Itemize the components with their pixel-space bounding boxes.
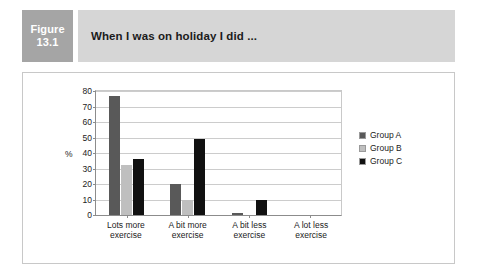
legend-item-label: Group A bbox=[370, 130, 401, 140]
bar[interactable] bbox=[232, 213, 243, 215]
x-axis-category-label: A bit lessexercise bbox=[219, 220, 281, 240]
x-axis-category-line2: exercise bbox=[95, 230, 157, 240]
legend-item[interactable]: Group B bbox=[359, 143, 402, 153]
chart-legend: Group AGroup BGroup C bbox=[359, 130, 402, 166]
x-axis-tick-mark bbox=[127, 215, 128, 218]
x-axis-category-line1: A bit more bbox=[157, 220, 219, 230]
bar-group bbox=[219, 91, 280, 215]
y-axis-tick-label: 40 bbox=[83, 148, 92, 158]
legend-swatch-icon bbox=[359, 132, 366, 139]
x-axis-labels: Lots moreexerciseA bit moreexerciseA bit… bbox=[95, 220, 342, 240]
gridline bbox=[96, 215, 341, 216]
y-axis-tick-label: 0 bbox=[87, 210, 92, 220]
legend-swatch-icon bbox=[359, 145, 366, 152]
bar[interactable] bbox=[256, 200, 267, 216]
x-axis-category-line1: A lot less bbox=[280, 220, 342, 230]
bar-groups bbox=[96, 91, 341, 215]
figure-container: Figure 13.1 When I was on holiday I did … bbox=[0, 0, 479, 276]
bar[interactable] bbox=[194, 139, 205, 215]
figure-number-word: Figure bbox=[30, 23, 64, 36]
y-axis-tick-mark bbox=[93, 215, 96, 216]
x-axis-category-label: Lots moreexercise bbox=[95, 220, 157, 240]
y-axis-tick-label: 20 bbox=[83, 179, 92, 189]
x-axis-category-label: A bit moreexercise bbox=[157, 220, 219, 240]
x-axis-category-line2: exercise bbox=[280, 230, 342, 240]
y-axis-tick-label: 10 bbox=[83, 195, 92, 205]
x-axis-category-line2: exercise bbox=[157, 230, 219, 240]
y-axis-tick-label: 80 bbox=[83, 86, 92, 96]
bar-group bbox=[157, 91, 218, 215]
legend-item[interactable]: Group C bbox=[359, 156, 402, 166]
x-axis-category-line1: A bit less bbox=[219, 220, 281, 230]
bar[interactable] bbox=[121, 165, 132, 215]
figure-number-value: 13.1 bbox=[37, 36, 59, 49]
y-axis-title: % bbox=[65, 149, 73, 159]
x-axis-category-line2: exercise bbox=[219, 230, 281, 240]
y-axis-tick-label: 70 bbox=[83, 102, 92, 112]
figure-number-badge: Figure 13.1 bbox=[22, 10, 73, 62]
legend-item-label: Group C bbox=[370, 156, 402, 166]
figure-title: When I was on holiday I did ... bbox=[91, 30, 257, 42]
y-axis-tick-label: 30 bbox=[83, 164, 92, 174]
x-axis-tick-mark bbox=[188, 215, 189, 218]
bar[interactable] bbox=[109, 96, 120, 215]
x-axis-category-label: A lot lessexercise bbox=[280, 220, 342, 240]
bar[interactable] bbox=[182, 200, 193, 216]
legend-item[interactable]: Group A bbox=[359, 130, 402, 140]
bar[interactable] bbox=[170, 184, 181, 215]
chart-panel: % 80706050403020100 Lots moreexerciseA b… bbox=[22, 72, 455, 264]
y-axis-tick-label: 60 bbox=[83, 117, 92, 127]
figure-title-bar: When I was on holiday I did ... bbox=[78, 10, 455, 62]
legend-swatch-icon bbox=[359, 158, 366, 165]
y-axis-tick-label: 50 bbox=[83, 133, 92, 143]
plot-area: 80706050403020100 bbox=[95, 90, 342, 216]
x-axis-category-line1: Lots more bbox=[95, 220, 157, 230]
bar-group bbox=[280, 91, 341, 215]
x-axis-tick-mark bbox=[249, 215, 250, 218]
legend-item-label: Group B bbox=[370, 143, 402, 153]
x-axis-tick-mark bbox=[310, 215, 311, 218]
bar-group bbox=[96, 91, 157, 215]
bar[interactable] bbox=[133, 159, 144, 215]
